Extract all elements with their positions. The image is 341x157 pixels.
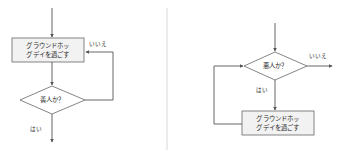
flowchart-left: グラウンドホッ グデイを過ごす 善人か？ いいえ はい [12,8,113,142]
left-process-label-line2: グデイを過ごす [26,50,69,59]
right-no-exit-label: いいえ [309,53,327,60]
right-process-label-line1: グラウンドホッ [256,114,299,123]
right-decision-label: 悪人か？ [263,62,288,70]
left-decision-label: 善人か？ [40,95,65,104]
diagram-canvas: グラウンドホッ グデイを過ごす 善人か？ いいえ はい 悪人か？ [0,0,341,157]
flowchart-right: 悪人か？ いいえ はい グラウンドホッ グデイを過ごす [214,23,332,135]
left-process-label-line1: グラウンドホッ [26,41,69,50]
left-no-loop-label: いいえ [89,41,107,48]
right-process-label-line2: グデイを過ごす [256,123,299,132]
right-loop-edge [214,66,243,124]
left-no-loop-edge [85,52,113,100]
left-yes-exit-label: はい [30,126,42,133]
right-yes-label: はい [256,87,268,94]
